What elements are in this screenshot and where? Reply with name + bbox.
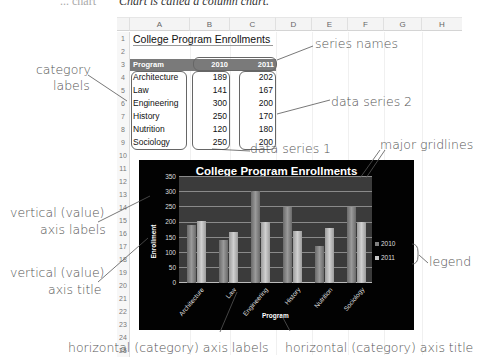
major-gridline [179,267,372,268]
header-program[interactable]: Program [133,60,164,69]
column-header-e[interactable]: E [312,17,348,31]
chart-legend[interactable]: 2010 2011 [375,240,395,261]
row-header[interactable]: 20 [117,279,130,292]
row-header[interactable]: 12 [117,175,130,188]
column-chart[interactable]: College Program Enrollments Enrollment 3… [139,160,414,330]
annotation-horizontal-axis-title: horizontal (category) axis title [285,340,473,355]
bar-architecture-2011[interactable] [197,221,206,283]
row-header[interactable]: 10 [117,149,130,162]
annotation-vertical-axis-labels-line1: vertical (value) [10,205,104,220]
row-header[interactable]: 11 [117,162,130,175]
category-labels-bracket [131,71,187,150]
series-names-bracket [193,57,277,71]
bar-law-2011[interactable] [229,232,238,283]
bar-nutrition-2011[interactable] [325,228,334,283]
column-header-c[interactable]: C [230,17,276,31]
caption-text: Chart is called a column chart. [119,0,269,8]
row-header[interactable]: 18 [117,253,130,266]
x-tick-label: Architecture [178,286,206,317]
row-header[interactable]: 9 [117,136,130,149]
bar-nutrition-2010[interactable] [315,246,324,283]
bar-sociology-2010[interactable] [347,207,356,283]
annotation-vertical-axis-title-line2: axis title [48,282,101,297]
data-series-2-bracket [239,71,276,150]
select-all-corner[interactable] [117,17,130,31]
row-header[interactable]: 1 [117,32,130,45]
row-header[interactable]: 15 [117,214,130,227]
y-tick: 300 [158,188,176,195]
y-tick: 150 [158,234,176,241]
row-header[interactable]: 17 [117,240,130,253]
row-header[interactable]: 6 [117,97,130,110]
row-header[interactable]: 23 [117,318,130,331]
row-header[interactable]: 14 [117,201,130,214]
legend-label: 2010 [381,240,395,247]
major-gridline [179,206,372,207]
x-axis-line [179,282,372,283]
annotation-category-labels-line1: category [36,62,91,77]
caption-fragment: ... chart Chart is called a column chart… [60,0,269,9]
legend-label: 2011 [381,254,395,261]
bar-architecture-2010[interactable] [187,225,196,283]
annotation-major-gridlines: major gridlines [380,137,473,152]
bar-engineering-2010[interactable] [251,191,260,283]
y-tick: 200 [158,218,176,225]
row-header[interactable]: 8 [117,123,130,136]
major-gridline [179,252,372,253]
legend-item-2010[interactable]: 2010 [375,240,395,247]
y-tick: 350 [158,173,176,180]
annotation-series-names: series names [315,36,398,51]
major-gridline [179,176,372,177]
major-gridline [179,222,372,223]
annotation-data-series-2: data series 2 [331,94,412,109]
column-header-g[interactable]: G [384,17,422,31]
y-tick: 100 [158,249,176,256]
annotation-horizontal-axis-labels: horizontal (category) axis labels [68,340,269,355]
legend-item-2011[interactable]: 2011 [375,254,395,261]
row-header[interactable]: 19 [117,266,130,279]
row-header[interactable]: 16 [117,227,130,240]
bar-sociology-2011[interactable] [357,222,366,283]
row-header[interactable]: 7 [117,110,130,123]
row-header[interactable]: 2 [117,45,130,58]
y-tick: 250 [158,203,176,210]
major-gridline [179,237,372,238]
plot-area[interactable] [179,176,372,283]
x-tick-label: Nutrition [312,286,333,309]
x-axis-title[interactable]: Program [262,312,289,319]
gridline [422,32,423,355]
annotation-vertical-axis-title-line1: vertical (value) [10,265,104,280]
legend-swatch-icon [375,256,379,260]
caption-lead: ... chart [60,0,96,8]
annotation-data-series-1: data series 1 [250,141,331,156]
row-header[interactable]: 13 [117,188,130,201]
x-tick-label: Sociology [342,286,365,312]
x-tick-label: Law [224,286,237,300]
annotation-legend: legend [429,254,471,269]
bar-history-2010[interactable] [283,207,292,283]
legend-swatch-icon [375,242,379,246]
column-header-h[interactable]: H [422,17,462,31]
y-tick: 0 [158,279,176,286]
row-header[interactable]: 5 [117,84,130,97]
row-header[interactable]: 22 [117,305,130,318]
bar-engineering-2011[interactable] [261,222,270,283]
data-series-1-bracket [192,71,230,150]
y-tick: 50 [158,264,176,271]
column-header-b[interactable]: B [190,17,230,31]
y-axis-title[interactable]: Enrollment [150,222,157,262]
row-header[interactable]: 3 [117,58,130,71]
bar-history-2011[interactable] [293,231,302,283]
column-header-d[interactable]: D [276,17,312,31]
annotation-vertical-axis-labels-line2: axis labels [40,222,106,237]
major-gridline [179,191,372,192]
x-tick-label: History [283,286,301,306]
annotation-category-labels-line2: labels [53,78,90,93]
row-header[interactable]: 4 [117,71,130,84]
column-header-a[interactable]: A [130,17,190,31]
column-header-f[interactable]: F [348,17,384,31]
bar-law-2010[interactable] [219,240,228,283]
row-header[interactable]: 21 [117,292,130,305]
sheet-title-cell[interactable]: College Program Enrollments [133,33,273,46]
